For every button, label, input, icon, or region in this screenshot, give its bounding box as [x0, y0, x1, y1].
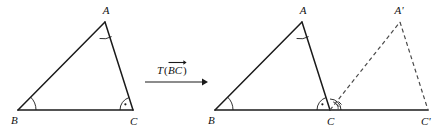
left-triangle-group: B C A [11, 4, 138, 127]
left-vertex-label-A: A [102, 4, 110, 16]
geometry-figure: B C A T ( BC ) [0, 0, 444, 132]
arrow-label-T: T [157, 64, 164, 76]
right-angle-arc-C-image-inner [333, 102, 338, 110]
left-segment-AC [105, 22, 133, 110]
figure-canvas: B C A T ( BC ) [0, 0, 444, 132]
arrow-label-close-paren: ) [183, 64, 187, 77]
right-segment-AC [302, 22, 330, 110]
right-vertex-label-A-prime: A' [393, 4, 404, 16]
right-angle-dot-C [321, 103, 323, 105]
right-vertex-label-A: A [299, 4, 307, 16]
right-segment-BA [215, 22, 302, 110]
arrow-head-icon [202, 79, 208, 86]
right-vertex-label-B: B [208, 114, 215, 126]
right-vertex-label-C: C [327, 115, 335, 127]
right-angle-arc-B [228, 97, 234, 110]
right-segment-C-to-Aprime [330, 22, 400, 110]
left-segment-BA [18, 22, 105, 110]
left-angle-arc-B [31, 97, 37, 110]
transformation-arrow-group: T ( BC ) [145, 60, 208, 85]
right-segment-Aprime-to-Cprime [400, 22, 428, 110]
right-vertex-label-C-prime: C' [421, 115, 431, 127]
left-vertex-label-C: C [130, 115, 138, 127]
arrow-label-vector-BC: BC [168, 64, 183, 76]
left-angle-dot-C [124, 103, 126, 105]
left-vertex-label-B: B [11, 114, 18, 126]
right-triangle-group: B C A C' A' [208, 4, 431, 127]
